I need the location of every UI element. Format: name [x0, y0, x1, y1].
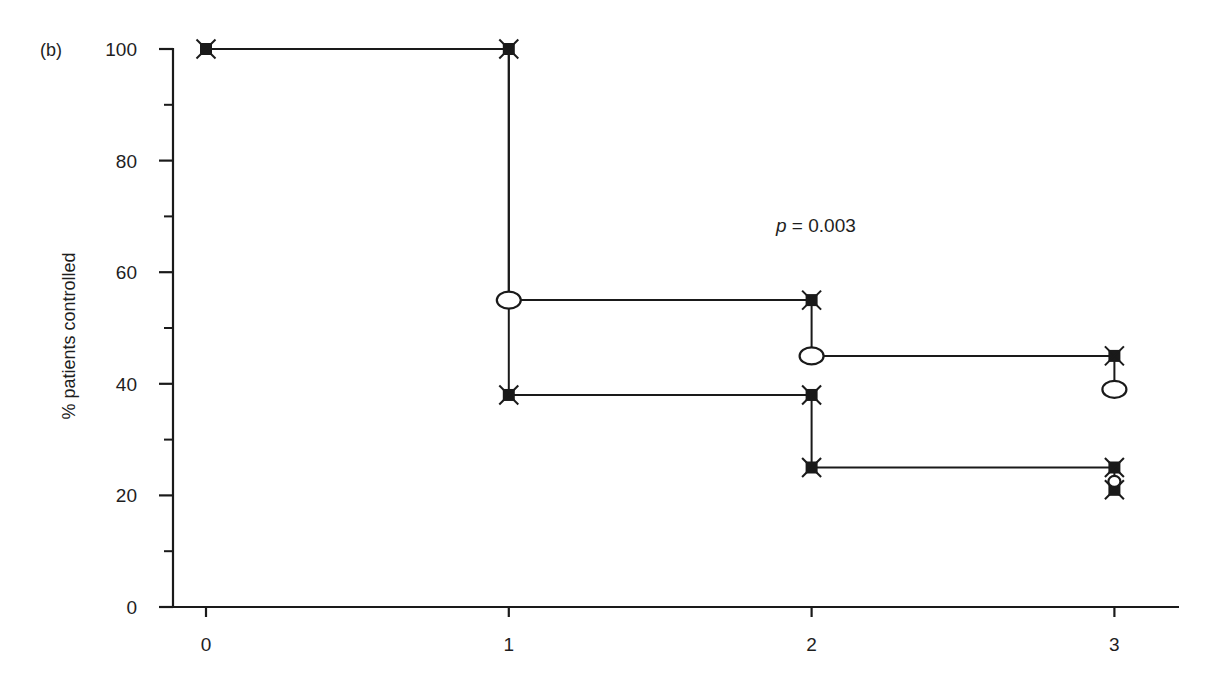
open-event-marker-icon	[800, 347, 824, 364]
x-tick-label: 1	[504, 634, 515, 655]
p-value-symbol: p	[775, 215, 787, 236]
y-tick-label: 40	[116, 374, 137, 395]
y-tick-label: 0	[126, 597, 137, 618]
kaplan-meier-chart: 020406080100 0123 (b) % patients control…	[0, 0, 1215, 696]
x-tick-label: 3	[1109, 634, 1120, 655]
series-line-1	[206, 49, 1114, 389]
y-tick-label: 60	[116, 262, 137, 283]
y-axis-title: % patients controlled	[59, 252, 79, 419]
p-value-text: = 0.003	[787, 215, 856, 236]
y-tick-label: 80	[116, 151, 137, 172]
axes: 020406080100 0123	[105, 39, 1179, 655]
y-tick-label: 100	[105, 39, 137, 60]
y-tick-label: 20	[116, 485, 137, 506]
panel-label: (b)	[40, 40, 62, 60]
y-axis-ticks: 020406080100	[105, 39, 173, 618]
x-tick-label: 2	[806, 634, 817, 655]
x-axis-ticks: 0123	[201, 607, 1120, 655]
marker-layer	[197, 40, 1127, 500]
series-line-2	[206, 49, 1114, 490]
x-tick-label: 0	[201, 634, 212, 655]
open-event-marker-icon	[497, 292, 521, 309]
series-layer	[206, 49, 1114, 490]
p-value-annotation: p = 0.003	[775, 215, 856, 236]
open-event-marker-icon	[1102, 381, 1126, 398]
open-event-marker-icon	[1108, 476, 1120, 487]
